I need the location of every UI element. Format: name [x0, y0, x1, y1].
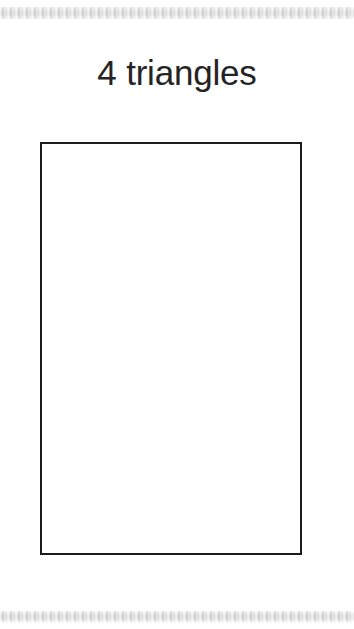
page-title: 4 triangles [0, 52, 354, 94]
answer-box[interactable] [40, 142, 302, 555]
worksheet-page: 4 triangles [0, 0, 354, 629]
scan-edge-band-bottom [0, 611, 354, 622]
answer-box-drawing-surface[interactable] [42, 144, 300, 553]
scan-edge-band-top [0, 7, 354, 19]
